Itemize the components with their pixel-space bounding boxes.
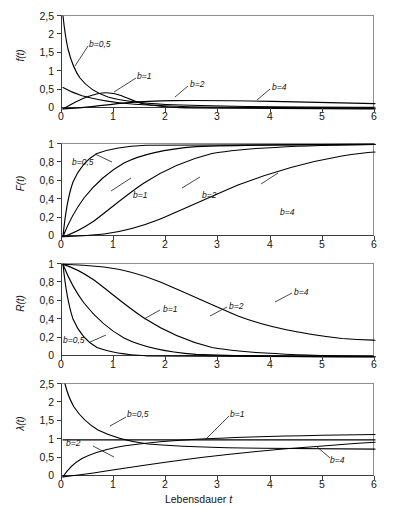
ytick-label: 1 [24,139,54,150]
ytick-label: 0,4 [24,314,54,325]
ytick-label: 2 [24,29,54,40]
curve-annotation: b=1 [230,410,244,419]
curve-annotation: b=0,5 [63,336,85,345]
panel-f-t-leaders [62,16,375,109]
xtick-label: 5 [310,479,334,490]
ytick-label: 0,8 [24,277,54,288]
curve-annotation: b=4 [330,456,344,465]
xtick-label: 4 [258,111,282,122]
panel-F-t-leaders [62,144,375,237]
panel-R-t-plot-area [61,263,374,356]
ytick-label: 0,6 [24,175,54,186]
curve-annotation: b=4 [294,288,308,297]
curve-annotation: b=0,5 [127,410,149,419]
panel-lambda-t-leaders [62,384,375,477]
xtick-label: 3 [205,111,229,122]
panel-lambda-t-plot-area [61,383,374,476]
x-axis-title-variable: t [229,493,232,505]
xtick-label: 6 [362,479,386,490]
xtick-label: 2 [153,111,177,122]
xtick-label: 0 [49,111,73,122]
panel-f-t-plot-area [61,15,374,108]
xtick-label: 6 [362,111,386,122]
curve-annotation: b=1 [163,305,177,314]
ytick-label: 0,4 [24,194,54,205]
ytick-label: 1 [24,66,54,77]
panel-F-t: F(t) 1 0,8 0,6 0,4 0,2 0 [0,128,397,250]
xtick-label: 1 [101,479,125,490]
ytick-label: 0,2 [24,212,54,223]
curve-annotation: b=2 [229,302,243,311]
ytick-label: 1,5 [24,47,54,58]
curve-annotation: b=2 [66,439,80,448]
ytick-label: 2 [24,397,54,408]
ytick-label: 0,8 [24,157,54,168]
curve-annotation: b=1 [137,72,151,81]
panel-R-t-leaders [62,264,375,357]
ytick-label: 0,5 [24,452,54,463]
ytick-label: 1 [24,259,54,270]
panel-lambda-t: λ(t) 2,5 2 1,5 1 0,5 0 [0,368,397,505]
ytick-label: 2,5 [24,11,54,22]
panel-F-t-plot-area [61,143,374,236]
curve-annotation: b=4 [280,208,294,217]
panel-f-t: f(t) 2,5 2 1,5 1 0,5 0 [0,0,397,122]
ytick-label: 1,5 [24,415,54,426]
curve-annotation: b=2 [202,191,216,200]
x-axis-title: Lebensdauer t [0,493,397,505]
xtick-label: 1 [101,111,125,122]
xtick-label: 0 [49,479,73,490]
xtick-label: 5 [310,111,334,122]
ytick-label: 0,6 [24,295,54,306]
panel-R-t: R(t) 1 0,8 0,6 0,4 0,2 0 [0,248,397,370]
xtick-label: 2 [153,479,177,490]
weibull-figure: f(t) 2,5 2 1,5 1 0,5 0 [0,0,397,505]
curve-annotation: b=0,5 [89,40,111,49]
ytick-label: 0,2 [24,332,54,343]
ytick-label: 1 [24,434,54,445]
curve-annotation: b=1 [133,191,147,200]
xtick-label: 3 [205,479,229,490]
ytick-label: 2,5 [24,379,54,390]
x-axis-title-text: Lebensdauer [165,493,226,505]
xtick-label: 4 [258,479,282,490]
curve-annotation: b=0,5 [72,158,94,167]
ytick-label: 0,5 [24,84,54,95]
curve-annotation: b=2 [190,80,204,89]
curve-annotation: b=4 [272,83,286,92]
